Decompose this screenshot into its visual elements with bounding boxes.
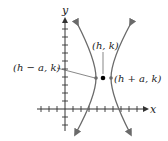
hyperbola-diagram: y x (h, k) (h − a, k) (h + a, k) — [0, 0, 168, 141]
left-vertex-point — [94, 76, 98, 80]
right-vertex-point — [109, 76, 113, 80]
y-axis: y — [61, 4, 69, 131]
right-vertex-label: (h + a, k) — [114, 73, 161, 84]
x-axis-label: x — [150, 103, 157, 116]
left-vertex-leader — [57, 68, 95, 78]
y-axis-label: y — [61, 4, 69, 17]
x-axis: x — [37, 103, 157, 116]
center-point — [101, 76, 106, 81]
left-vertex-label: (h − a, k) — [13, 62, 60, 73]
center-label: (h, k) — [92, 40, 119, 51]
